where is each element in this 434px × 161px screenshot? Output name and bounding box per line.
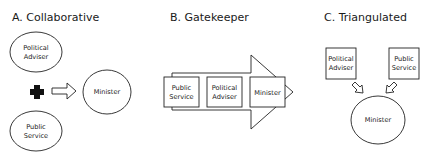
panel-collaborative: A. Collaborative Political Adviser Minis… [10, 11, 131, 151]
minister-box: Minister [250, 77, 285, 107]
public-service-label-line1: Public [172, 84, 192, 92]
public-service-label-line2: Service [24, 132, 48, 140]
panel-a-title: A. Collaborative [12, 11, 99, 24]
public-service-box: Public Service [389, 48, 419, 79]
panel-triangulated: C. Triangulated Political Adviser Public… [324, 11, 419, 144]
minister-label: Minister [365, 116, 392, 124]
minister-node: Minister [351, 96, 405, 144]
hollow-arrow-right-icon [52, 83, 76, 99]
minister-label: Minister [254, 89, 281, 97]
hollow-arrow-down-left-icon [386, 82, 397, 93]
minister-node: Minister [83, 70, 131, 114]
public-service-label-line2: Service [392, 64, 416, 72]
governance-models-diagram: A. Collaborative Political Adviser Minis… [0, 0, 434, 161]
public-service-box: Public Service [164, 77, 199, 107]
political-adviser-label-line1: Political [23, 44, 49, 52]
political-adviser-label-line2: Adviser [24, 53, 49, 61]
minister-label: Minister [94, 88, 121, 96]
political-adviser-label-line2: Adviser [329, 64, 354, 72]
public-service-label-line2: Service [169, 93, 193, 101]
political-adviser-label-line2: Adviser [212, 93, 237, 101]
hollow-arrow-down-right-icon [352, 82, 363, 93]
panel-b-title: B. Gatekeeper [170, 11, 249, 24]
panel-c-title: C. Triangulated [324, 11, 407, 24]
public-service-label-line1: Public [26, 123, 46, 131]
political-adviser-label-line1: Political [212, 84, 238, 92]
political-adviser-node: Political Adviser [10, 32, 62, 72]
political-adviser-box: Political Adviser [207, 77, 242, 107]
public-service-rect [164, 77, 199, 107]
political-adviser-rect [207, 77, 242, 107]
panel-gatekeeper: B. Gatekeeper Public Service Political A… [164, 11, 293, 129]
public-service-ellipse [10, 111, 62, 151]
public-service-label-line1: Public [394, 55, 414, 63]
political-adviser-box: Political Adviser [326, 48, 356, 79]
political-adviser-ellipse [10, 32, 62, 72]
political-adviser-label-line1: Political [328, 55, 354, 63]
plus-icon [30, 85, 44, 99]
public-service-node: Public Service [10, 111, 62, 151]
